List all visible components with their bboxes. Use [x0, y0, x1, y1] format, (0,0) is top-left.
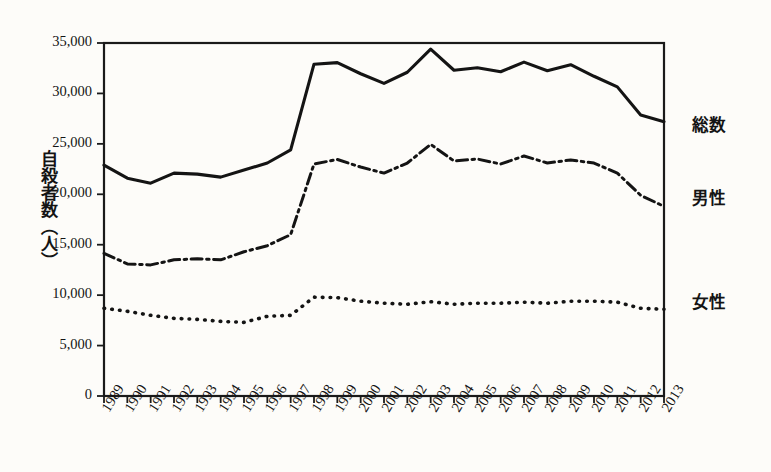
y-tick-label: 5,000	[59, 336, 92, 353]
series-line-female	[104, 297, 664, 322]
y-tick-label: 0	[85, 386, 92, 403]
y-tick-label: 15,000	[52, 235, 92, 252]
y-tick-label: 30,000	[52, 83, 92, 100]
y-tick-label: 25,000	[52, 134, 92, 151]
suicide-statistics-chart: 自殺者数（人） 05,00010,00015,00020,00025,00030…	[0, 0, 771, 472]
series-label-女性: 女性	[692, 289, 726, 313]
plot-frame	[104, 43, 664, 396]
series-label-男性: 男性	[692, 185, 726, 209]
series-line-male	[104, 144, 664, 265]
y-tick-label: 20,000	[52, 184, 92, 201]
y-tick-label: 35,000	[52, 33, 92, 50]
y-tick-label: 10,000	[52, 285, 92, 302]
series-line-total	[104, 49, 664, 183]
series-label-総数: 総数	[692, 112, 726, 136]
